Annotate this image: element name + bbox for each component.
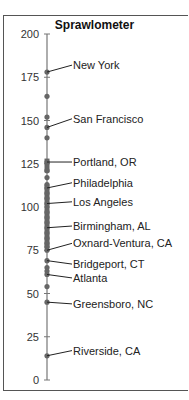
leader-line [47, 202, 72, 204]
leader-line [47, 243, 72, 250]
point-label: Los Angeles [73, 196, 133, 208]
data-point [44, 114, 49, 119]
point-label: Birmingham, AL [73, 220, 151, 232]
y-tick-label: 100 [21, 201, 39, 213]
leader-line [47, 261, 72, 264]
leader-line [47, 65, 72, 72]
data-point [44, 196, 49, 201]
data-point [44, 210, 49, 215]
y-tick-label: 175 [21, 71, 39, 83]
y-tick-label: 75 [27, 244, 39, 256]
data-point [44, 175, 49, 180]
sprawlometer-chart: 0255075100125150175200New YorkSan Franci… [0, 0, 189, 400]
data-point [44, 284, 49, 289]
point-label: Atlanta [73, 272, 108, 284]
point-label: Bridgeport, CT [73, 258, 145, 270]
data-point [44, 168, 49, 173]
data-point [44, 94, 49, 99]
leader-line [47, 274, 72, 277]
leader-line [47, 351, 72, 356]
point-label: Greensboro, NC [73, 298, 153, 310]
leader-line [47, 119, 72, 128]
data-point [44, 230, 49, 235]
y-tick-label: 150 [21, 115, 39, 127]
y-tick-label: 125 [21, 158, 39, 170]
leader-line [47, 183, 72, 188]
leader-line [47, 302, 72, 304]
leader-line [47, 226, 72, 228]
data-point [44, 236, 49, 241]
data-point [44, 135, 49, 140]
data-point [44, 191, 49, 196]
y-tick-label: 200 [21, 28, 39, 40]
data-point [44, 220, 49, 225]
point-label: New York [73, 59, 120, 71]
y-tick-label: 0 [33, 374, 39, 386]
point-label: Philadelphia [73, 177, 134, 189]
data-point [44, 215, 49, 220]
y-tick-label: 50 [27, 288, 39, 300]
point-label: Oxnard-Ventura, CA [73, 237, 173, 249]
point-label: San Francisco [73, 113, 143, 125]
y-tick-label: 25 [27, 331, 39, 343]
point-label: Portland, OR [73, 156, 137, 168]
point-label: Riverside, CA [73, 345, 141, 357]
